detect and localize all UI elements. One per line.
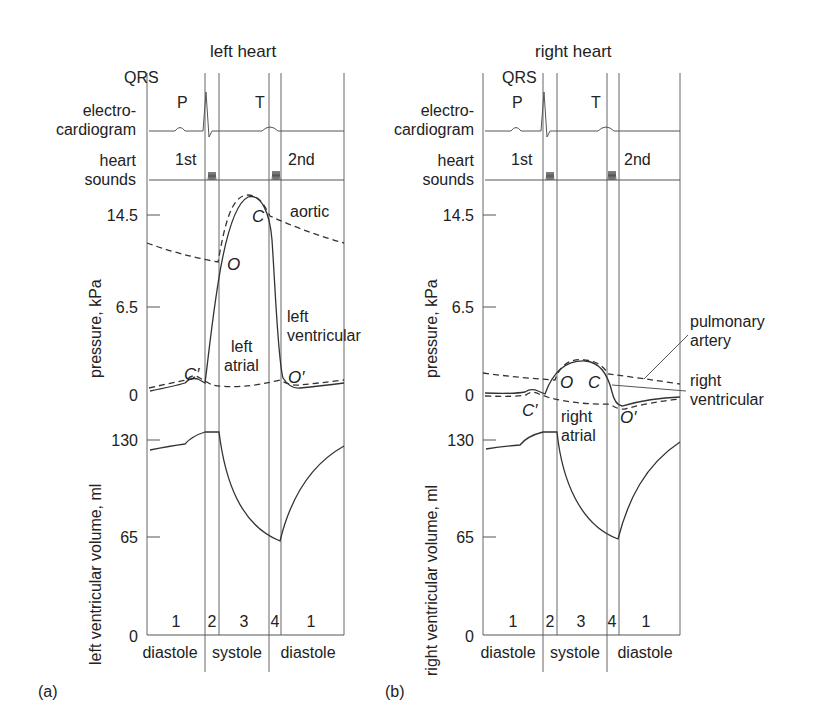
phase-3: 3 bbox=[577, 613, 586, 630]
pressure-tick-0: 0 bbox=[129, 387, 138, 404]
phase-2: 2 bbox=[546, 613, 555, 630]
ecg-label-1: electro- bbox=[421, 102, 474, 119]
p-wave-label: P bbox=[512, 94, 523, 111]
panel-right-heart: right heart QRS P T electro- cardiogram … bbox=[385, 42, 765, 700]
volume-tick-130: 130 bbox=[111, 432, 138, 449]
c-point-label: C bbox=[588, 373, 601, 392]
pressure-axis-label: pressure, kPa bbox=[423, 279, 440, 378]
pulmonary-label-1: pulmonary bbox=[690, 313, 765, 330]
t-wave-label: T bbox=[255, 94, 265, 111]
pulmonary-artery-pressure-curve bbox=[483, 360, 680, 384]
left-ventricular-label-1: left bbox=[287, 308, 309, 325]
sounds-label-2: sounds bbox=[84, 171, 136, 188]
pressure-tick-0: 0 bbox=[465, 387, 474, 404]
sounds-label-1: heart bbox=[438, 152, 475, 169]
ecg-label-2: cardiogram bbox=[394, 121, 474, 138]
right-atrial-label-1: right bbox=[561, 408, 593, 425]
volume-axis-label: right ventricular volume, ml bbox=[423, 485, 440, 676]
pressure-tick-6-5: 6.5 bbox=[452, 299, 474, 316]
o-prime-label: O′ bbox=[288, 368, 305, 387]
ecg-label-2: cardiogram bbox=[56, 121, 136, 138]
c-prime-label: C′ bbox=[522, 401, 538, 420]
second-sound-label: 2nd bbox=[624, 151, 651, 168]
t-wave-label: T bbox=[591, 94, 601, 111]
left-ventricular-label-2: ventricular bbox=[287, 327, 361, 344]
left-atrial-label-2: atrial bbox=[224, 357, 259, 374]
volume-tick-130: 130 bbox=[447, 432, 474, 449]
p-wave-label: P bbox=[177, 94, 188, 111]
volume-tick-0: 0 bbox=[129, 628, 138, 645]
qrs-label: QRS bbox=[124, 69, 159, 86]
right-ventricular-volume-curve bbox=[486, 432, 680, 539]
second-sound-label: 2nd bbox=[288, 151, 315, 168]
phase-4: 4 bbox=[271, 613, 280, 630]
right-ventricular-pressure-curve bbox=[485, 361, 680, 406]
left-atrial-label-1: left bbox=[231, 338, 253, 355]
volume-tick-65: 65 bbox=[120, 529, 138, 546]
phase-1b: 1 bbox=[642, 613, 651, 630]
systole-label: systole bbox=[550, 644, 600, 661]
systole-label: systole bbox=[212, 644, 262, 661]
diastole-label: diastole bbox=[142, 644, 197, 661]
panel-tag: (a) bbox=[38, 683, 58, 700]
first-sound-burst bbox=[208, 172, 216, 180]
panel-title: right heart bbox=[535, 42, 612, 61]
right-atrial-pressure-curve bbox=[485, 392, 680, 409]
second-sound-burst bbox=[272, 171, 280, 180]
first-sound-label: 1st bbox=[175, 151, 197, 168]
volume-axis-label: left ventricular volume, ml bbox=[87, 484, 104, 665]
o-prime-label: O′ bbox=[620, 408, 637, 427]
left-ventricular-volume-curve bbox=[150, 432, 344, 541]
pressure-tick-6-5: 6.5 bbox=[116, 299, 138, 316]
right-atrial-label-2: atrial bbox=[561, 427, 596, 444]
c-point-label: C bbox=[252, 207, 265, 226]
right-ventricular-label-2: ventricular bbox=[690, 391, 764, 408]
phase-1: 1 bbox=[509, 613, 518, 630]
phase-1: 1 bbox=[172, 613, 181, 630]
phase-1b: 1 bbox=[307, 613, 316, 630]
ecg-label-1: electro- bbox=[83, 102, 136, 119]
cardiac-cycle-diagram: left heart QRS P T electro- cardiogram 1… bbox=[0, 0, 819, 728]
first-sound-burst bbox=[546, 172, 554, 180]
pulmonary-leader-line bbox=[644, 335, 688, 379]
o-point-label: O bbox=[560, 373, 573, 392]
phase-2: 2 bbox=[208, 613, 217, 630]
pressure-axis-label: pressure, kPa bbox=[87, 279, 104, 378]
panel-left-heart: left heart QRS P T electro- cardiogram 1… bbox=[38, 42, 361, 700]
qrs-label: QRS bbox=[502, 69, 537, 86]
c-prime-label: C′ bbox=[184, 365, 200, 384]
right-ventricular-label-1: right bbox=[690, 372, 722, 389]
pulmonary-label-2: artery bbox=[690, 332, 731, 349]
diastole-label-2: diastole bbox=[280, 644, 335, 661]
first-sound-label: 1st bbox=[511, 151, 533, 168]
phase-3: 3 bbox=[240, 613, 249, 630]
volume-tick-65: 65 bbox=[456, 529, 474, 546]
pressure-tick-14-5: 14.5 bbox=[107, 207, 138, 224]
volume-tick-0: 0 bbox=[465, 628, 474, 645]
sounds-label-2: sounds bbox=[422, 171, 474, 188]
right-ventricular-leader-line bbox=[612, 385, 686, 391]
second-sound-burst bbox=[608, 171, 616, 180]
panel-title: left heart bbox=[210, 42, 276, 61]
o-point-label: O bbox=[227, 255, 240, 274]
phase-4: 4 bbox=[608, 613, 617, 630]
diastole-label-2: diastole bbox=[617, 644, 672, 661]
diastole-label: diastole bbox=[480, 644, 535, 661]
sounds-label-1: heart bbox=[100, 152, 137, 169]
pressure-tick-14-5: 14.5 bbox=[443, 207, 474, 224]
aortic-label: aortic bbox=[290, 203, 329, 220]
panel-tag: (b) bbox=[385, 683, 405, 700]
